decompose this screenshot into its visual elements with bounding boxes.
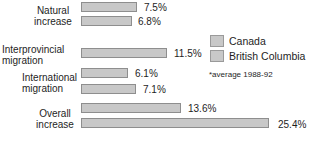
bar-natural-bc xyxy=(81,16,132,26)
legend-swatch-british-columbia xyxy=(210,50,224,62)
value-international-bc: 7.1% xyxy=(143,85,166,95)
legend-label-british-columbia: British Columbia xyxy=(229,50,305,62)
label-line: migration xyxy=(22,83,78,94)
value-interprovincial-bc: 11.5% xyxy=(174,49,202,59)
category-label-overall-increase: Overall increase xyxy=(32,108,78,130)
category-label-interprovincial-migration: Interprovincial migration xyxy=(0,44,79,66)
category-label-international-migration: International migration xyxy=(22,72,78,94)
bar-natural-canada xyxy=(81,2,137,12)
bar-interprovincial-bc xyxy=(81,48,167,58)
legend-label-canada: Canada xyxy=(229,35,266,47)
label-line: International xyxy=(22,72,78,83)
label-line: increase xyxy=(30,16,76,27)
legend-swatch-canada xyxy=(210,35,224,47)
category-label-natural-increase: Natural increase xyxy=(30,5,76,27)
value-natural-canada: 7.5% xyxy=(144,3,167,13)
label-line: Interprovincial xyxy=(2,44,79,55)
bar-overall-canada xyxy=(81,103,181,113)
value-natural-bc: 6.8% xyxy=(138,17,161,27)
bar-overall-bc xyxy=(81,118,269,128)
footnote-average: *average 1988-92 xyxy=(209,70,273,79)
value-international-canada: 6.1% xyxy=(135,69,158,79)
bar-international-bc xyxy=(81,84,136,94)
label-line: Natural xyxy=(30,5,76,16)
value-overall-bc: 25.4% xyxy=(278,120,306,130)
bar-international-canada xyxy=(81,68,128,78)
value-overall-canada: 13.6% xyxy=(188,104,216,114)
label-line: Overall xyxy=(32,108,78,119)
label-line: increase xyxy=(32,119,78,130)
label-line: migration xyxy=(2,55,79,66)
